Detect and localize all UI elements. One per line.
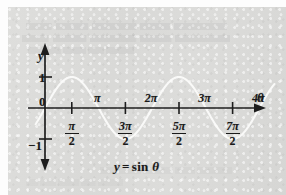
y-axis-label: y xyxy=(38,49,44,62)
x-tick-label-pi-over-2: π 2 xyxy=(59,120,85,147)
x-tick-label-pi: π xyxy=(94,92,101,104)
x-tick-label-2pi: 2π xyxy=(145,92,158,104)
x-tick-label-3pi-over-2: 3π 2 xyxy=(112,120,138,147)
fraction-numerator: 5π xyxy=(166,120,192,133)
x-tick-label-5pi-over-2: 5π 2 xyxy=(166,120,192,147)
x-tick-label-4pi: 4π xyxy=(252,92,265,104)
x-tick-label-3pi: 3π xyxy=(198,92,211,104)
fraction-numerator: 3π xyxy=(112,120,138,133)
figure-panel: y θ 0 1 −1 π 2π 3π 4π π 2 3π 2 5π 2 7π 2 xyxy=(8,7,286,195)
fraction-denominator: 2 xyxy=(112,134,138,147)
fraction-numerator: π xyxy=(59,120,85,133)
caption-theta: θ xyxy=(152,159,159,174)
y-axis-arrowhead-down xyxy=(41,159,50,171)
fraction-numerator: 7π xyxy=(220,120,246,133)
y-tick-label-negative-one: −1 xyxy=(28,139,42,152)
caption-equals: = xyxy=(120,159,132,174)
x-tick-label-7pi-over-2: 7π 2 xyxy=(220,120,246,147)
origin-label: 0 xyxy=(39,95,46,108)
fraction-denominator: 2 xyxy=(166,134,192,147)
figure-caption: y=sin θ xyxy=(114,159,159,175)
fraction-denominator: 2 xyxy=(59,134,85,147)
fraction-denominator: 2 xyxy=(220,134,246,147)
figure-root: y θ 0 1 −1 π 2π 3π 4π π 2 3π 2 5π 2 7π 2 xyxy=(0,0,286,195)
caption-function: sin xyxy=(132,159,149,174)
y-tick-label-one: 1 xyxy=(39,71,46,84)
